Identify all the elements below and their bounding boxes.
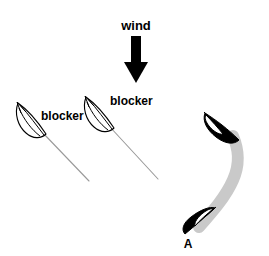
blocker-left-label: blocker [41,109,84,123]
blocker-left-wake [43,133,89,181]
blocker-boat-right [84,96,158,179]
wind-label: wind [120,18,151,33]
figure-canvas: wind blocker blocker A [0,0,269,256]
wind-arrow-group [124,36,148,83]
blocker-right-label: blocker [110,94,153,108]
sailing-tactics-diagram: wind blocker blocker A [0,0,269,256]
boat-a-label: A [184,237,193,251]
blocker-right-wake [110,127,158,179]
wind-arrow-head [124,62,148,83]
boat-a-upper [204,112,239,143]
wind-arrow-shaft [131,36,141,64]
